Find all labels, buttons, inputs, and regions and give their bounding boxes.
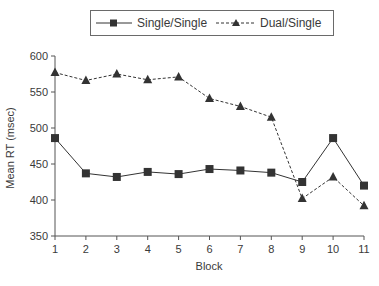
x-tick-label: 2 (83, 243, 89, 255)
x-tick-label: 6 (206, 243, 212, 255)
square-marker-icon (144, 168, 152, 176)
series-single-single (51, 134, 368, 190)
y-tick-label: 400 (30, 194, 48, 206)
square-marker-icon (110, 20, 117, 27)
square-marker-icon (175, 170, 183, 178)
square-marker-icon (82, 169, 90, 177)
triangle-marker-icon (205, 93, 214, 102)
y-tick-label: 350 (30, 230, 48, 242)
x-tick-label: 11 (358, 243, 369, 255)
triangle-marker-icon (174, 72, 183, 81)
y-tick-label: 600 (30, 50, 48, 62)
x-tick-label: 4 (145, 243, 151, 255)
square-marker-icon (206, 165, 214, 173)
y-tick-label: 550 (30, 86, 48, 98)
square-marker-icon (236, 166, 244, 174)
plot-area (51, 68, 369, 210)
x-axis: 1234567891011 (52, 236, 370, 255)
series-dual-single (51, 68, 369, 210)
triangle-marker-icon (112, 69, 121, 78)
square-marker-icon (298, 178, 306, 186)
y-tick-label: 450 (30, 158, 48, 170)
x-tick-label: 1 (52, 243, 58, 255)
series-line (55, 138, 364, 186)
x-axis-title: Block (196, 260, 223, 272)
x-tick-label: 7 (237, 243, 243, 255)
x-tick-label: 10 (327, 243, 339, 255)
triangle-marker-icon (329, 172, 338, 181)
x-tick-label: 9 (299, 243, 305, 255)
line-chart: Single/Single Dual/Single 35040045050055… (0, 0, 379, 286)
y-axis-title: Mean RT (msec) (4, 107, 16, 189)
legend-label: Single/Single (137, 16, 207, 30)
legend: Single/Single Dual/Single (91, 11, 334, 36)
square-marker-icon (360, 182, 368, 190)
square-marker-icon (113, 173, 121, 181)
series-line (55, 73, 364, 206)
x-tick-label: 8 (268, 243, 274, 255)
triangle-marker-icon (360, 201, 369, 210)
square-marker-icon (329, 134, 337, 142)
triangle-marker-icon (51, 68, 60, 77)
triangle-marker-icon (298, 194, 307, 203)
y-axis: 350400450500550600 (30, 50, 55, 242)
square-marker-icon (267, 169, 275, 177)
y-tick-label: 500 (30, 122, 48, 134)
legend-label: Dual/Single (260, 16, 322, 30)
square-marker-icon (51, 134, 59, 142)
x-tick-label: 3 (114, 243, 120, 255)
x-tick-label: 5 (176, 243, 182, 255)
